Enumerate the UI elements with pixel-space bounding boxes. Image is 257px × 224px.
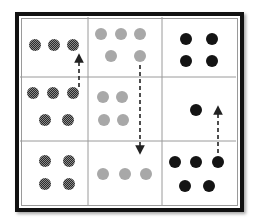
cell-r2-c0 [39, 155, 75, 190]
cell-r0-c1 [95, 28, 146, 62]
cell-r2-c1 [97, 168, 152, 180]
cell-r1-c2 [190, 104, 202, 116]
cell-r1-c0 [27, 87, 79, 126]
cell-r0-c0 [29, 39, 79, 51]
cell-r2-c2 [169, 156, 224, 192]
cell-r1-c1 [97, 91, 129, 126]
dot-grid-diagram [0, 0, 257, 224]
cell-r0-c2 [180, 33, 218, 67]
